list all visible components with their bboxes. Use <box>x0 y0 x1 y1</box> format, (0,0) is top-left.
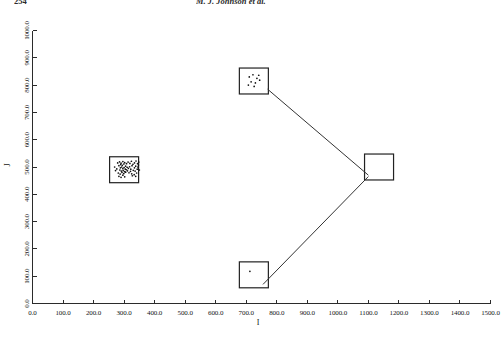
data-point <box>248 84 250 86</box>
data-point <box>121 165 123 167</box>
x-tick-label: 1500.0 <box>481 309 500 317</box>
data-point <box>127 161 129 163</box>
data-point <box>120 162 122 164</box>
data-point <box>130 171 132 173</box>
data-point <box>116 168 118 170</box>
data-point <box>122 170 124 172</box>
data-point <box>129 163 131 165</box>
data-point <box>135 175 137 177</box>
data-point <box>252 74 254 76</box>
data-point <box>114 166 116 168</box>
data-point <box>118 165 120 167</box>
data-point <box>119 173 121 175</box>
x-tick-label: 0.0 <box>28 309 37 317</box>
y-tick-label: 800.0 <box>23 77 31 93</box>
plot-canvas: 0.0100.0200.0300.0400.0500.0600.0700.080… <box>0 0 501 338</box>
x-tick-label: 800.0 <box>269 309 285 317</box>
data-point <box>123 167 125 169</box>
cluster-box-top <box>239 68 268 94</box>
x-axis-ticks: 0.0100.0200.0300.0400.0500.0600.0700.080… <box>28 300 500 317</box>
cluster-box-left <box>110 157 139 183</box>
data-point <box>258 74 260 76</box>
x-tick-label: 300.0 <box>116 309 132 317</box>
y-tick-label: 500.0 <box>23 159 31 175</box>
y-axis-ticks: 0.0100.0200.0300.0400.0500.0600.0700.080… <box>23 21 36 308</box>
data-point <box>139 169 141 171</box>
data-point <box>132 163 134 165</box>
data-point <box>115 170 117 172</box>
data-point <box>119 169 121 171</box>
y-tick-label: 900.0 <box>23 50 31 66</box>
axes-group <box>33 31 491 304</box>
data-point <box>253 86 255 88</box>
data-point <box>126 163 128 165</box>
data-point <box>125 165 127 167</box>
data-point <box>133 174 135 176</box>
x-tick-label: 700.0 <box>239 309 255 317</box>
data-point <box>134 170 136 172</box>
y-axis-title: J <box>3 163 12 166</box>
data-point <box>132 169 134 171</box>
data-point <box>250 81 252 83</box>
x-tick-label: 100.0 <box>55 309 71 317</box>
data-point <box>121 166 123 168</box>
x-tick-label: 400.0 <box>147 309 163 317</box>
data-point <box>117 162 119 164</box>
data-point <box>248 76 250 78</box>
y-tick-label: 600.0 <box>23 131 31 147</box>
x-tick-label: 1100.0 <box>359 309 378 317</box>
cluster-boxes <box>110 68 394 288</box>
data-point <box>135 165 137 167</box>
data-point <box>131 175 133 177</box>
data-point <box>256 77 258 79</box>
scatter-plot-figure: 0.0100.0200.0300.0400.0500.0600.0700.080… <box>0 0 501 338</box>
data-point <box>131 173 133 175</box>
data-point <box>136 172 138 174</box>
data-point <box>259 79 261 81</box>
data-point <box>125 171 127 173</box>
x-tick-label: 1400.0 <box>451 309 470 317</box>
data-point <box>255 82 257 84</box>
cluster-box-right <box>365 154 394 180</box>
data-point <box>130 168 132 170</box>
y-tick-label: 200.0 <box>23 241 31 257</box>
x-tick-label: 200.0 <box>86 309 102 317</box>
y-tick-label: 400.0 <box>23 186 31 202</box>
y-tick-label: 1000.0 <box>23 21 31 40</box>
data-point <box>127 170 129 172</box>
figure-page: 254 M. J. Johnson et al. 0.0100.0200.030… <box>0 0 501 338</box>
data-point <box>128 172 130 174</box>
data-point <box>138 161 140 163</box>
data-point <box>123 173 125 175</box>
x-tick-label: 600.0 <box>208 309 224 317</box>
data-point <box>122 161 124 163</box>
data-point <box>118 175 120 177</box>
data-point <box>134 167 136 169</box>
data-point <box>249 270 251 272</box>
data-point <box>120 177 122 179</box>
y-tick-label: 0.0 <box>23 299 31 308</box>
data-points <box>114 74 261 272</box>
y-tick-label: 300.0 <box>23 213 31 229</box>
data-point <box>124 176 126 178</box>
y-tick-label: 700.0 <box>23 104 31 120</box>
data-point <box>124 162 126 164</box>
data-point <box>135 160 137 162</box>
data-point <box>131 160 133 162</box>
x-tick-label: 1000.0 <box>329 309 348 317</box>
data-point <box>117 172 119 174</box>
data-point <box>121 172 123 174</box>
y-tick-label: 100.0 <box>23 268 31 284</box>
x-tick-label: 500.0 <box>178 309 194 317</box>
data-point <box>134 162 136 164</box>
data-point <box>122 174 124 176</box>
x-tick-label: 1300.0 <box>420 309 439 317</box>
data-point <box>137 166 139 168</box>
data-point <box>128 168 130 170</box>
connector-lines <box>263 89 368 284</box>
data-point <box>137 163 139 165</box>
x-tick-label: 1200.0 <box>390 309 409 317</box>
data-point <box>129 166 131 168</box>
x-axis-title: I <box>257 318 260 327</box>
top-to-right <box>268 89 369 175</box>
